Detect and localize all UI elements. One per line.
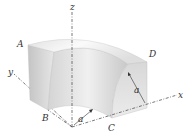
inner-radius-arrowhead xyxy=(89,109,93,113)
point-a-label: A xyxy=(16,39,24,49)
3d-solid-diagram: z y x A D B C a a xyxy=(0,0,186,136)
x-axis-label: x xyxy=(178,90,183,100)
y-axis-label: y xyxy=(7,67,14,77)
z-axis-label: z xyxy=(69,2,75,12)
point-b-label: B xyxy=(41,113,49,123)
side-dimension-label: a xyxy=(134,85,139,95)
origin-to-b-line xyxy=(48,110,72,127)
point-c-label: C xyxy=(108,123,115,133)
point-d-label: D xyxy=(148,49,156,59)
inner-radius-label: a xyxy=(78,114,83,124)
